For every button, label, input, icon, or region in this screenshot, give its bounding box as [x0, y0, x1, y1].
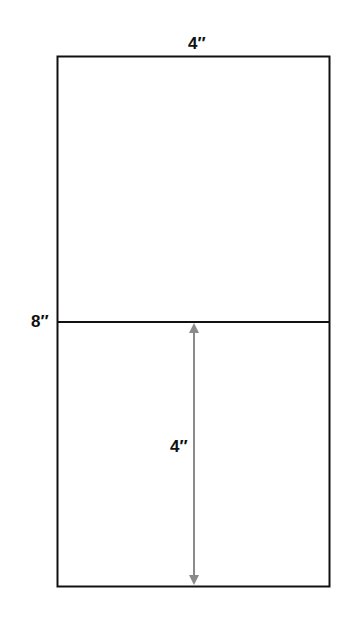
- diagram-canvas: 4″ 8″ 4″: [0, 0, 351, 617]
- arrow-up-head-icon: [189, 323, 199, 333]
- top-width-label: 4″: [188, 34, 206, 53]
- left-height-label: 8″: [31, 312, 49, 331]
- arrow-dimension-label: 4″: [170, 437, 188, 456]
- arrow-down-head-icon: [189, 575, 199, 585]
- vertical-dimension-arrow: [189, 323, 199, 585]
